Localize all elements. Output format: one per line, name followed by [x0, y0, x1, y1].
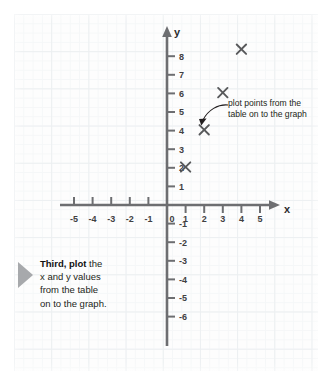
callout-arrow-icon: [199, 105, 228, 126]
y-tick-label: 7: [179, 70, 184, 80]
triangle-bullet-icon: [18, 262, 33, 288]
x-tick-label: 3: [220, 214, 225, 224]
y-tick-label: -4: [179, 275, 187, 285]
x-tick-label: -3: [107, 214, 115, 224]
plot-points-callout: plot points from the table on to the gra…: [228, 98, 326, 120]
coordinate-graph: 8 7 6 5 4 3 2 1 -1 -2 -3 -4 -5 -6 -5 -4 …: [0, 0, 332, 386]
instruction-line-2: x and y values: [40, 270, 145, 283]
callout-line-1: plot points from the: [228, 98, 326, 109]
x-tick-label: -2: [126, 214, 134, 224]
data-point-marker-x[interactable]: [218, 88, 227, 97]
callout-line-2: table on to the graph: [228, 109, 326, 120]
x-tick-label: -4: [89, 214, 97, 224]
x-tick-label: 5: [257, 214, 262, 224]
x-tick-label: 1: [183, 214, 188, 224]
y-tick-label: -6: [179, 312, 187, 322]
y-tick-labels: 8 7 6 5 4 3 2 1 -1 -2 -3 -4 -5 -6: [179, 52, 187, 322]
y-tick-label: -3: [179, 256, 187, 266]
y-tick-label: 3: [179, 145, 184, 155]
x-tick-label: 2: [202, 214, 207, 224]
worksheet-page: 8 7 6 5 4 3 2 1 -1 -2 -3 -4 -5 -6 -5 -4 …: [0, 0, 332, 386]
instruction-line-3: from the table: [40, 283, 145, 296]
y-tick-label: 5: [179, 107, 184, 117]
x-axis-label: x: [284, 203, 290, 215]
y-tick-label: 8: [179, 52, 184, 62]
data-point-marker-x[interactable]: [200, 125, 209, 134]
y-tick-label: -2: [179, 238, 187, 248]
y-tick-label: 4: [179, 126, 184, 136]
y-axis-label: y: [174, 26, 180, 38]
instruction-line-4: on to the graph.: [40, 297, 145, 310]
x-tick-label: -5: [70, 214, 78, 224]
data-point-marker-x[interactable]: [237, 45, 246, 54]
y-tick-label: 1: [179, 182, 184, 192]
instruction-text: Third, plot the x and y values from the …: [40, 257, 145, 310]
x-tick-label: 4: [239, 214, 244, 224]
instruction-bold-lead: Third, plot: [40, 258, 86, 269]
y-tick-label: -5: [179, 293, 187, 303]
x-tick-label: -1: [144, 214, 152, 224]
y-tick-label: 6: [179, 89, 184, 99]
instruction-line-1: Third, plot the: [40, 257, 145, 270]
origin-label: 0: [169, 214, 174, 224]
instruction-line-1-rest: the: [86, 258, 102, 269]
